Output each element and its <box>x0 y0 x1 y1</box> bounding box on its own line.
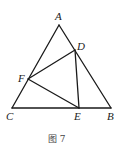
label-c: C <box>6 110 14 122</box>
segment-ab <box>59 25 111 108</box>
segment-fd <box>28 50 75 79</box>
triangle-def <box>28 50 79 108</box>
triangle-abc <box>12 25 111 108</box>
label-a: A <box>54 10 62 22</box>
figure-caption: 图 7 <box>48 134 66 144</box>
segment-de <box>75 50 79 108</box>
geometry-figure: A B C D E F 图 7 <box>0 0 124 151</box>
label-e: E <box>73 110 81 122</box>
segment-ca <box>12 25 59 108</box>
segment-ef <box>28 79 79 108</box>
label-f: F <box>17 72 25 84</box>
label-d: D <box>76 40 85 52</box>
label-b: B <box>107 110 114 122</box>
